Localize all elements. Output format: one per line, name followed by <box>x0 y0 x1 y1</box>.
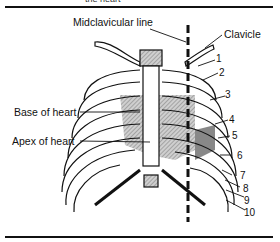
rib-number-9: 9 <box>244 195 250 206</box>
rib-number-8: 8 <box>243 183 249 194</box>
label-base-of-heart: Base of heart <box>14 106 76 118</box>
rib-number-5: 5 <box>232 130 238 141</box>
label-clavicle: Clavicle <box>224 28 261 40</box>
rib-number-10: 10 <box>244 207 255 218</box>
label-apex-of-heart: Apex of heart <box>12 135 74 147</box>
rib-number-4: 4 <box>229 114 235 125</box>
label-midclavicular-line: Midclavicular line <box>73 16 153 28</box>
rib-number-7: 7 <box>240 170 246 181</box>
rib-number-2: 2 <box>219 67 225 78</box>
rib-number-3: 3 <box>225 89 231 100</box>
rib-number-6: 6 <box>237 150 243 161</box>
rib-number-1: 1 <box>216 53 222 64</box>
